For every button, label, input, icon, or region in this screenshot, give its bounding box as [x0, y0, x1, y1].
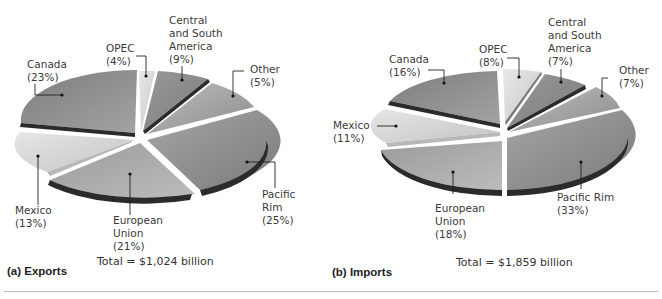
imports-panel-label: (b) Imports: [332, 266, 392, 278]
exports-label-opec: OPEC (4%): [106, 42, 135, 68]
imports-label-other: Other (7%): [619, 64, 649, 90]
imports-label-opec: OPEC (8%): [479, 43, 508, 69]
bottom-divider: [4, 291, 658, 292]
imports-slice-eu: [381, 141, 502, 190]
exports-label-csa: Central and South America (9%): [169, 14, 223, 66]
imports-label-canada: Canada (16%): [389, 53, 429, 79]
imports-slice-pacific: [507, 110, 636, 190]
imports-label-csa: Central and South America (7%): [548, 16, 602, 68]
imports-label-mexico: Mexico (11%): [333, 119, 370, 145]
imports-label-eu: European Union (18%): [435, 202, 485, 241]
imports-label-pacific: Pacific Rim (33%): [557, 191, 614, 217]
imports-total: Total = $1,859 billion: [456, 256, 573, 269]
exports-panel-label: (a) Exports: [7, 265, 67, 277]
exports-label-mexico: Mexico (13%): [15, 204, 52, 230]
exports-label-other: Other (5%): [250, 63, 280, 89]
exports-label-pacific: Pacific Rim (25%): [262, 188, 295, 227]
exports-total: Total = $1,024 billion: [97, 255, 214, 268]
exports-label-eu: European Union (21%): [113, 214, 163, 253]
exports-label-canada: Canada (23%): [27, 58, 67, 84]
